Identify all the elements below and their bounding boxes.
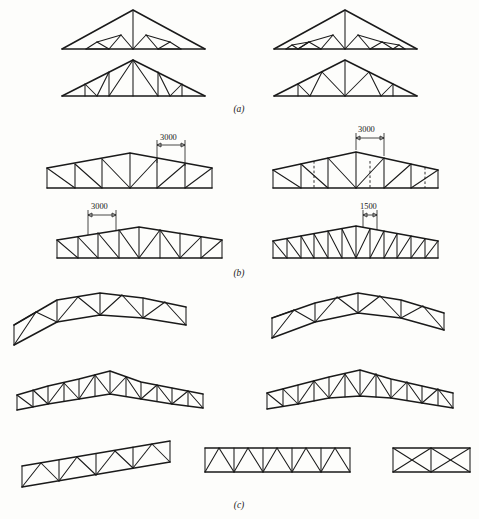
truss-b1: 3000: [47, 133, 212, 188]
truss-c7: [393, 448, 470, 472]
truss-a1: [62, 10, 205, 49]
dimension-label: 3000: [160, 133, 177, 142]
truss-c3: [17, 371, 203, 410]
panel-label-c: (c): [219, 500, 259, 510]
truss-b3: 3000: [57, 202, 222, 258]
truss-c5: [22, 441, 170, 487]
dimension-label: 1500: [360, 202, 377, 211]
truss-b4: 1500: [273, 202, 438, 258]
panel-label-b: (b): [219, 268, 259, 278]
truss-c6: [205, 448, 350, 472]
dimension-label: 3000: [91, 202, 108, 211]
dimension-label: 3000: [358, 125, 375, 134]
truss-a2: [274, 10, 417, 49]
truss-c2: [272, 293, 444, 338]
truss-a4: [274, 60, 417, 96]
truss-c4: [267, 370, 453, 409]
truss-a3: [62, 60, 205, 96]
truss-b2: 3000: [273, 125, 438, 188]
panel-label-a: (a): [219, 104, 259, 114]
truss-figure: 3000 3000: [0, 0, 479, 519]
truss-drawing-canvas: 3000 3000: [0, 0, 479, 519]
truss-c1: [14, 293, 186, 345]
